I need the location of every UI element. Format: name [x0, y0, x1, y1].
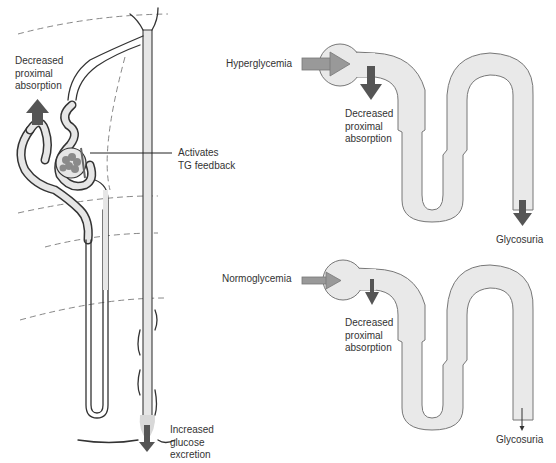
activates-tg-feedback-label: Activates TG feedback [178, 147, 235, 172]
bottom-glycosuria-label: Glycosuria [496, 434, 543, 447]
bottom-decreased-proximal-label: Decreased proximal absorption [345, 317, 393, 355]
glomerulus [56, 148, 86, 178]
up-arrow-icon [26, 99, 49, 125]
dashed-boundary-vertical [107, 57, 125, 190]
collecting-duct [78, 8, 175, 443]
top-glycosuria-label: Glycosuria [496, 234, 543, 247]
dashed-boundary-mid2 [45, 233, 158, 247]
normoglycemia-label: Normoglycemia [222, 273, 291, 286]
decreased-proximal-absorption-label: Decreased proximal absorption [15, 55, 63, 93]
nephron-tubule [21, 36, 143, 418]
increased-glucose-excretion-label: Increased glucose excretion [170, 424, 214, 462]
top-decreased-proximal-label: Decreased proximal absorption [345, 108, 393, 146]
dashed-boundary-mid1 [18, 196, 158, 213]
hyperglycemia-label: Hyperglycemia [226, 58, 292, 71]
